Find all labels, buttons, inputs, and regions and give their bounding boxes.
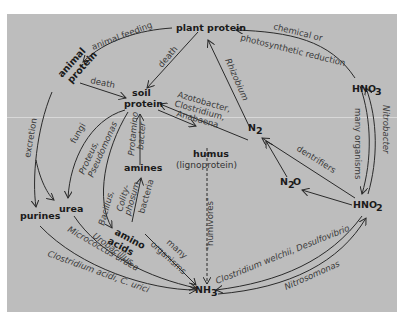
- arrow-hno2-n2o: [302, 190, 352, 205]
- node-humus-sub: (lignoprotein): [176, 160, 237, 170]
- arrow-n2o-n2: [266, 141, 287, 177]
- svg-text:2: 2: [256, 125, 263, 136]
- label-clostridium-welchii: Clostridium welchii, Desulfovibrio: [214, 223, 351, 286]
- label-chemical-1: chemical or: [273, 21, 325, 43]
- arrow-excretion-urea: [36, 160, 54, 200]
- node-soil: soil: [132, 87, 151, 98]
- nitrogen-cycle-diagram: plant protein animal protein soil protei…: [0, 0, 410, 322]
- label-chemical-2: photosynthetic reduction: [240, 32, 347, 68]
- arrow-plant-death: [147, 32, 198, 88]
- label-humivores: "humivores": [205, 197, 215, 250]
- node-amines: amines: [124, 162, 163, 173]
- svg-text:O: O: [293, 176, 301, 187]
- node-soil-protein: protein: [124, 98, 163, 109]
- node-nh3: NH 3: [195, 284, 218, 298]
- node-humus: humus: [193, 148, 229, 159]
- node-hno3: HNO 3: [352, 83, 382, 97]
- label-nitrobacter: Nitrobacter: [381, 105, 391, 154]
- svg-text:N: N: [280, 176, 288, 187]
- svg-text:2: 2: [376, 202, 383, 213]
- svg-text:3: 3: [375, 86, 382, 97]
- arrow-nitrobacter: [366, 88, 375, 194]
- arrow-excretion: [35, 92, 52, 207]
- label-protamino-2: bacter: [135, 121, 147, 150]
- svg-text:NH: NH: [195, 284, 211, 295]
- node-n2o: N 2 O: [280, 176, 301, 190]
- svg-text:HNO: HNO: [353, 199, 377, 210]
- label-nitrosomonas: Nitrosomonas: [283, 258, 342, 292]
- label-dentrifiers: dentrifiers: [295, 143, 338, 175]
- arrow-dentrifiers: [262, 138, 355, 198]
- node-purines: purines: [20, 210, 61, 221]
- label-bacillus: Bacillus,: [96, 189, 115, 226]
- node-hno2: HNO 2: [353, 199, 383, 213]
- node-plant-protein: plant protein: [176, 22, 246, 33]
- label-fungi: fungi: [68, 121, 88, 145]
- svg-text:HNO: HNO: [352, 83, 376, 94]
- label-many-organisms-hno: many organisms: [353, 108, 363, 180]
- label-animal-feeding: animal feeding: [90, 20, 154, 52]
- node-urea: urea: [59, 203, 83, 214]
- svg-text:3: 3: [211, 287, 218, 298]
- node-n2: N 2: [248, 122, 263, 136]
- svg-text:N: N: [248, 122, 256, 133]
